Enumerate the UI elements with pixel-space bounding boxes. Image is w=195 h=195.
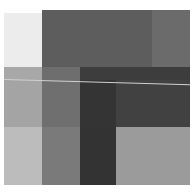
top-right-gray-block — [152, 10, 190, 67]
band2-left-block — [4, 67, 42, 80]
abstract-composition — [0, 0, 195, 195]
bottom-col3-block — [80, 127, 116, 185]
band3-left-block — [4, 80, 42, 127]
top-left-light-block — [4, 13, 42, 67]
band2-col2-block — [42, 67, 80, 80]
band3-right-block — [116, 80, 190, 127]
band2-dark-block — [80, 67, 190, 80]
bottom-left-block — [4, 127, 42, 185]
band3-col2-block — [42, 80, 80, 127]
band3-col3-block — [80, 80, 116, 127]
top-mid-gray-block — [42, 10, 152, 67]
bottom-col2-block — [42, 127, 80, 185]
bottom-right-light-block — [116, 127, 190, 185]
